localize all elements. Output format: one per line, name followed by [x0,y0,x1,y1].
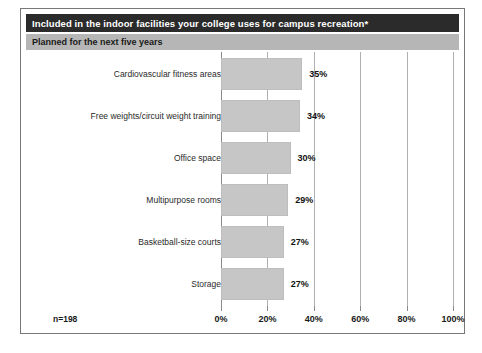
bar-value-label: 27% [291,237,309,247]
category-label: Cardiovascular fitness areas [114,69,221,79]
category-label: Multipurpose rooms [146,195,221,205]
bar-row: Cardiovascular fitness areas35% [26,58,459,90]
bar-value-label: 27% [291,279,309,289]
bar-row: Office space30% [26,142,459,174]
chart-frame: Included in the indoor facilities your c… [20,8,465,334]
bar-row: Basketball-size courts27% [26,226,459,258]
x-tick-label: 0% [214,314,227,324]
bar-row: Multipurpose rooms29% [26,184,459,216]
bar [221,268,284,300]
category-label: Basketball-size courts [138,237,221,247]
category-label: Storage [191,279,221,289]
chart-subtitle: Planned for the next five years [32,37,163,47]
x-tick-label: 20% [258,314,276,324]
chart-subtitle-bar: Planned for the next five years [26,34,459,50]
bar-row: Free weights/circuit weight training34% [26,100,459,132]
bar [221,142,291,174]
bar [221,58,302,90]
category-label: Free weights/circuit weight training [91,111,221,121]
x-tick-label: 80% [398,314,416,324]
sample-size-note: n=198 [53,314,77,324]
bar-value-label: 29% [295,195,313,205]
bar-row: Storage27% [26,268,459,300]
bar-value-label: 35% [309,69,327,79]
x-tick-label: 100% [441,314,464,324]
bar [221,100,300,132]
tick-mark-40 [314,306,315,311]
bar [221,226,284,258]
bar [221,184,288,216]
chart-title: Included in the indoor facilities your c… [32,18,368,29]
tick-mark-80 [407,306,408,311]
category-label: Office space [174,153,221,163]
tick-mark-20 [267,306,268,311]
bar-value-label: 30% [298,153,316,163]
plot-area: 0%20%40%60%80%100%Cardiovascular fitness… [26,52,459,329]
tick-mark-60 [360,306,361,311]
x-tick-label: 40% [305,314,323,324]
chart-title-bar: Included in the indoor facilities your c… [26,14,459,32]
bar-value-label: 34% [307,111,325,121]
tick-mark-0 [221,306,222,311]
x-tick-label: 60% [351,314,369,324]
tick-mark-100 [453,306,454,311]
